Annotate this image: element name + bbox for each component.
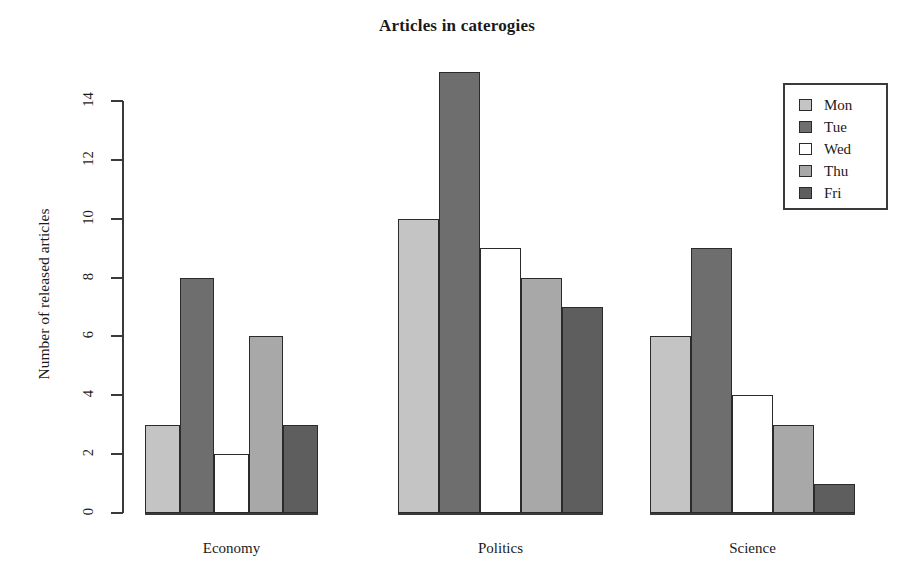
bar bbox=[398, 219, 439, 513]
legend-swatch-icon bbox=[799, 121, 812, 133]
bar bbox=[214, 454, 249, 513]
bar bbox=[439, 72, 480, 513]
y-axis-tick-label: 2 bbox=[80, 433, 97, 473]
legend-swatch-icon bbox=[799, 165, 812, 177]
y-axis-tick-label: 14 bbox=[80, 80, 97, 120]
legend-item-label: Wed bbox=[824, 142, 851, 157]
legend-item-label: Tue bbox=[824, 120, 847, 135]
category-baseline bbox=[145, 513, 318, 515]
bar bbox=[814, 484, 855, 513]
legend-item-mon[interactable]: Mon bbox=[799, 94, 886, 116]
legend-item-tue[interactable]: Tue bbox=[799, 116, 886, 138]
x-axis-category-label: Science bbox=[650, 540, 855, 557]
bar bbox=[691, 248, 732, 513]
y-axis-tick bbox=[111, 512, 123, 514]
legend-item-fri[interactable]: Fri bbox=[799, 182, 886, 204]
bar bbox=[521, 278, 562, 513]
legend-swatch-icon bbox=[799, 143, 812, 155]
bar bbox=[562, 307, 603, 513]
y-axis-tick-label: 4 bbox=[80, 374, 97, 414]
legend-item-thu[interactable]: Thu bbox=[799, 160, 886, 182]
x-axis-category-label: Economy bbox=[145, 540, 318, 557]
y-axis-tick bbox=[111, 453, 123, 455]
y-axis-tick bbox=[111, 335, 123, 337]
y-axis-tick-label: 10 bbox=[80, 197, 97, 237]
bar bbox=[283, 425, 318, 513]
y-axis-tick-label: 12 bbox=[80, 138, 97, 178]
chart-page: Articles in caterogies Number of release… bbox=[0, 0, 914, 584]
legend-item-wed[interactable]: Wed bbox=[799, 138, 886, 160]
legend: MonTueWedThuFri bbox=[783, 83, 888, 210]
legend-item-label: Thu bbox=[824, 164, 848, 179]
x-axis-category-label: Politics bbox=[398, 540, 603, 557]
y-axis-spine bbox=[122, 101, 124, 513]
bar bbox=[249, 336, 284, 513]
plot-area: 02468101214 EconomyPoliticsScience bbox=[0, 0, 914, 584]
bar bbox=[773, 425, 814, 513]
bar bbox=[732, 395, 773, 513]
y-axis-tick-label: 0 bbox=[80, 492, 97, 532]
y-axis-tick bbox=[111, 394, 123, 396]
y-axis-tick-label: 6 bbox=[80, 315, 97, 355]
category-baseline bbox=[650, 513, 855, 515]
y-axis-tick bbox=[111, 277, 123, 279]
bar bbox=[480, 248, 521, 513]
bar bbox=[650, 336, 691, 513]
category-baseline bbox=[398, 513, 603, 515]
legend-swatch-icon bbox=[799, 99, 812, 111]
bar bbox=[145, 425, 180, 513]
legend-swatch-icon bbox=[799, 187, 812, 199]
legend-item-label: Fri bbox=[824, 186, 842, 201]
bar bbox=[180, 278, 215, 513]
y-axis-tick bbox=[111, 218, 123, 220]
y-axis-tick-label: 8 bbox=[80, 256, 97, 296]
y-axis-tick bbox=[111, 159, 123, 161]
legend-item-label: Mon bbox=[824, 98, 852, 113]
y-axis-tick bbox=[111, 100, 123, 102]
